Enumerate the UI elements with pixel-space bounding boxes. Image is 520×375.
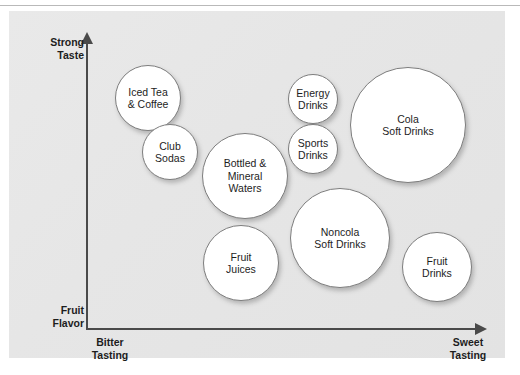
bubble-label: Club Sodas — [151, 140, 189, 165]
page-top-rule — [0, 5, 520, 6]
bubble-label: Fruit Drinks — [418, 255, 456, 280]
bubble-label: Energy Drinks — [292, 87, 333, 112]
bubble-label: Bottled & Mineral Waters — [220, 157, 271, 195]
bubble-label: Noncola Soft Drinks — [310, 226, 369, 251]
x-axis-line — [86, 328, 478, 330]
bubble-noncola-soft-drinks: Noncola Soft Drinks — [290, 188, 390, 288]
bubble-energy-drinks: Energy Drinks — [288, 74, 338, 124]
positioning-map-figure: Strong Taste Fruit Flavor Bitter Tasting… — [0, 0, 520, 375]
bubble-club-sodas: Club Sodas — [142, 124, 198, 180]
bubble-fruit-drinks: Fruit Drinks — [402, 232, 472, 302]
bubble-sports-drinks: Sports Drinks — [288, 124, 338, 174]
bubble-fruit-juices: Fruit Juices — [203, 225, 279, 301]
y-axis-top-label: Strong Taste — [40, 36, 84, 61]
bubble-bottled-mineral-waters: Bottled & Mineral Waters — [202, 133, 288, 219]
bubble-label: Fruit Juices — [222, 251, 260, 276]
bubble-label: Cola Soft Drinks — [378, 113, 437, 138]
x-axis-left-label: Bitter Tasting — [79, 336, 141, 361]
bubble-cola-soft-drinks: Cola Soft Drinks — [350, 67, 466, 183]
x-axis-arrow-icon — [475, 323, 487, 335]
y-axis-line — [86, 43, 88, 330]
bubble-iced-tea-coffee: Iced Tea & Coffee — [115, 65, 181, 131]
y-axis-bottom-label: Fruit Flavor — [38, 304, 84, 329]
x-axis-right-label: Sweet Tasting — [437, 336, 499, 361]
chart-panel: Strong Taste Fruit Flavor Bitter Tasting… — [9, 11, 505, 358]
bubble-label: Iced Tea & Coffee — [124, 86, 173, 111]
bubble-label: Sports Drinks — [294, 137, 332, 162]
